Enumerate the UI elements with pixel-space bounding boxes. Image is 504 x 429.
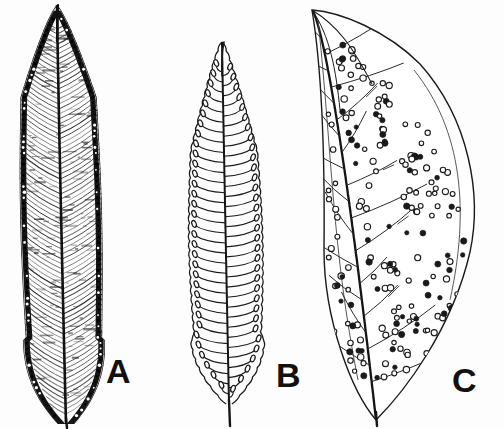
panel-label-c: C <box>452 361 477 399</box>
botanical-figure: A B C <box>0 0 504 429</box>
panel-label-b: B <box>276 356 301 394</box>
figure-root: A B C <box>0 0 504 429</box>
panel-label-a: A <box>106 352 131 390</box>
